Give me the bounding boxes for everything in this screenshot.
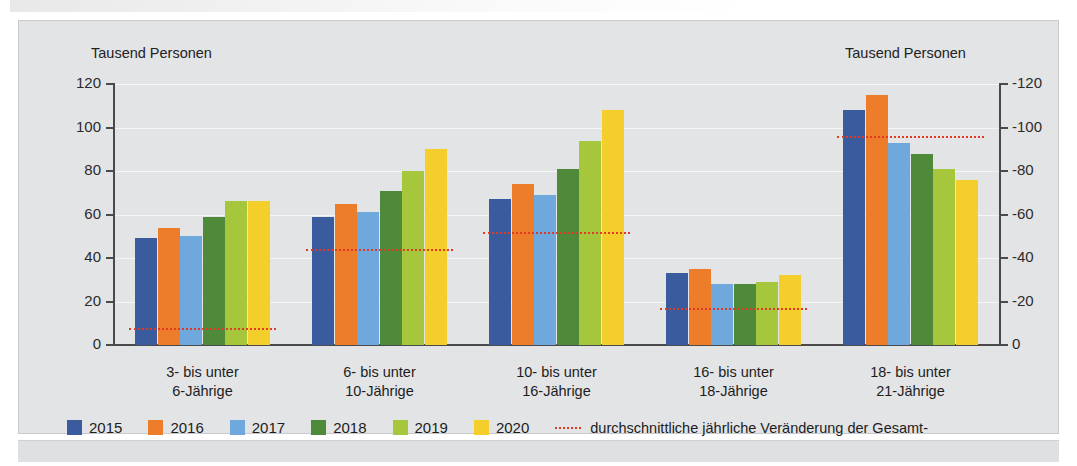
bar-2017-cat4 xyxy=(711,284,733,345)
gridline xyxy=(114,84,999,85)
category-label-line1: 3- bis unter xyxy=(113,363,293,382)
legend-label-2017: 2017 xyxy=(252,419,285,436)
chart-container: Tausend Personen Tausend Personen 120100… xyxy=(18,20,1059,434)
bar-2018-cat5 xyxy=(911,154,933,345)
right-axis-tick xyxy=(1000,83,1008,85)
bar-2018-cat1 xyxy=(203,217,225,345)
legend-item-2017: 2017 xyxy=(230,419,285,436)
legend-item-2020: 2020 xyxy=(474,419,529,436)
right-axis-title: Tausend Personen xyxy=(845,45,966,61)
bar-2016-cat3 xyxy=(512,184,534,345)
legend-item-2016: 2016 xyxy=(148,419,203,436)
scanned-page: Tausend Personen Tausend Personen 120100… xyxy=(0,0,1077,466)
left-axis-tick-label: 120 xyxy=(49,74,101,91)
bar-2019-cat3 xyxy=(579,141,601,345)
legend-label-2020: 2020 xyxy=(496,419,529,436)
bar-2017-cat5 xyxy=(888,143,910,345)
legend-swatch-icon xyxy=(67,420,82,435)
bar-2016-cat5 xyxy=(866,95,888,345)
left-axis-tick-label: 80 xyxy=(49,161,101,178)
bar-2019-cat1 xyxy=(225,201,247,345)
bar-2020-cat4 xyxy=(779,275,801,345)
left-axis-tick-label: 60 xyxy=(49,205,101,222)
right-axis-tick xyxy=(1000,257,1008,259)
right-axis-tick-label: -20 xyxy=(1012,292,1034,309)
category-label-5: 18- bis unter21-Jährige xyxy=(821,363,1001,401)
legend-label-2019: 2019 xyxy=(415,419,448,436)
category-label-3: 10- bis unter16-Jährige xyxy=(467,363,647,401)
category-label-line1: 18- bis unter xyxy=(821,363,1001,382)
average-change-segment-cat2 xyxy=(306,249,453,251)
category-label-line1: 16- bis unter xyxy=(644,363,824,382)
right-axis-tick xyxy=(1000,301,1008,303)
right-axis-line xyxy=(999,83,1001,346)
legend-label-2015: 2015 xyxy=(89,419,122,436)
legend-item-2019: 2019 xyxy=(393,419,448,436)
average-change-segment-cat5 xyxy=(837,136,984,138)
legend-item-2015: 2015 xyxy=(67,419,122,436)
right-axis-tick xyxy=(1000,344,1008,346)
legend-note-line-1: durchschnittliche jährliche Veränderung … xyxy=(590,420,928,436)
bar-2017-cat2 xyxy=(357,212,379,345)
left-axis-tick-label: 40 xyxy=(49,248,101,265)
category-label-1: 3- bis unter6-Jährige xyxy=(113,363,293,401)
bar-2019-cat5 xyxy=(933,169,955,345)
bar-2015-cat5 xyxy=(843,110,865,345)
right-axis-tick-label: -40 xyxy=(1012,248,1034,265)
legend-swatch-icon xyxy=(393,420,408,435)
bar-2019-cat4 xyxy=(756,282,778,345)
bar-2015-cat3 xyxy=(489,199,511,345)
dotted-line-icon xyxy=(555,427,581,429)
page-bottom-band xyxy=(18,440,1059,462)
left-axis-tick-label: 0 xyxy=(49,335,101,352)
bar-2020-cat3 xyxy=(602,110,624,345)
right-axis-tick xyxy=(1000,127,1008,129)
category-label-line2: 16-Jährige xyxy=(467,382,647,401)
right-axis-tick-label: -60 xyxy=(1012,205,1034,222)
bar-2018-cat2 xyxy=(380,191,402,345)
category-label-line2: 18-Jährige xyxy=(644,382,824,401)
category-label-line2: 6-Jährige xyxy=(113,382,293,401)
legend-item-2018: 2018 xyxy=(311,419,366,436)
category-label-line1: 10- bis unter xyxy=(467,363,647,382)
right-axis-tick xyxy=(1000,170,1008,172)
category-label-line2: 21-Jährige xyxy=(821,382,1001,401)
right-axis-tick-label: -80 xyxy=(1012,161,1034,178)
left-axis-tick-label: 100 xyxy=(49,118,101,135)
bar-2020-cat5 xyxy=(956,180,978,345)
right-axis-tick xyxy=(1000,214,1008,216)
bar-2016-cat2 xyxy=(335,204,357,345)
legend-swatch-icon xyxy=(230,420,245,435)
category-label-line1: 6- bis unter xyxy=(290,363,470,382)
legend-swatch-icon xyxy=(148,420,163,435)
bar-2015-cat2 xyxy=(312,217,334,345)
average-change-segment-cat3 xyxy=(483,232,630,234)
bar-2020-cat1 xyxy=(248,201,270,345)
left-axis-title: Tausend Personen xyxy=(91,45,212,61)
legend-label-2016: 2016 xyxy=(170,419,203,436)
left-axis-tick-label: 20 xyxy=(49,292,101,309)
bar-2018-cat4 xyxy=(734,284,756,345)
legend-year-items: 201520162017201820192020 xyxy=(67,419,555,436)
legend-swatch-icon xyxy=(311,420,326,435)
bar-2017-cat3 xyxy=(534,195,556,345)
bar-2020-cat2 xyxy=(425,149,447,345)
page-top-margin xyxy=(0,0,1077,20)
average-change-segment-cat1 xyxy=(129,328,276,330)
left-axis-line xyxy=(113,83,115,346)
legend-swatch-icon xyxy=(474,420,489,435)
right-axis-tick-label: -120 xyxy=(1012,74,1042,91)
average-change-segment-cat4 xyxy=(660,308,807,310)
right-axis-tick-label: 0 xyxy=(1012,335,1020,352)
bar-2016-cat4 xyxy=(689,269,711,345)
category-label-2: 6- bis unter10-Jährige xyxy=(290,363,470,401)
bar-2018-cat3 xyxy=(557,169,579,345)
right-axis-tick-label: -100 xyxy=(1012,118,1042,135)
category-label-line2: 10-Jährige xyxy=(290,382,470,401)
category-label-4: 16- bis unter18-Jährige xyxy=(644,363,824,401)
legend-label-2018: 2018 xyxy=(333,419,366,436)
bar-2019-cat2 xyxy=(402,171,424,345)
